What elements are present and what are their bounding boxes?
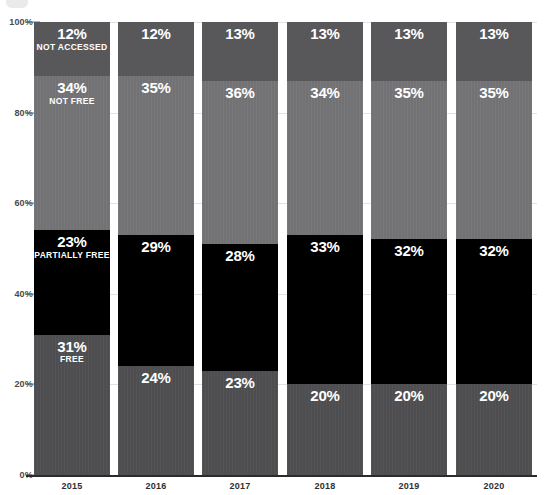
segment-value-label: 35% <box>479 85 508 101</box>
bar-2019[interactable]: 13%35%32%20% <box>371 22 447 475</box>
x-axis-label-2016: 2016 <box>118 481 194 491</box>
segment-value-label: 35% <box>141 80 170 96</box>
segment-free-2019[interactable]: 20% <box>371 384 447 475</box>
segment-notfree-2018[interactable]: 34% <box>287 81 363 235</box>
segment-value-label: 23% <box>225 375 254 391</box>
segment-value-label: 29% <box>141 239 170 255</box>
segment-value-label: 35% <box>394 85 423 101</box>
segment-value-label: 34% <box>57 80 86 96</box>
segment-value-label: 31% <box>57 339 86 355</box>
segment-value-label: 13% <box>479 26 508 42</box>
segment-value-label: 36% <box>225 85 254 101</box>
segment-partiallyfree-2016[interactable]: 29% <box>118 235 194 366</box>
segment-value-label: 20% <box>394 388 423 404</box>
segment-category-label: NOT FREE <box>49 97 94 107</box>
segment-partiallyfree-2017[interactable]: 28% <box>202 244 278 371</box>
y-tick-label: 80% <box>0 108 33 118</box>
segment-value-label: 13% <box>394 26 423 42</box>
segment-value-label: 13% <box>225 26 254 42</box>
segment-partiallyfree-2019[interactable]: 32% <box>371 239 447 384</box>
segment-partiallyfree-2015[interactable]: 23%PARTIALLY FREE <box>34 230 110 334</box>
segment-value-label: 12% <box>141 26 170 42</box>
segment-free-2015[interactable]: 31%FREE <box>34 335 110 475</box>
segment-notaccessed-2017[interactable]: 13% <box>202 22 278 81</box>
segment-value-label: 33% <box>310 239 339 255</box>
corner-artifact <box>6 0 28 8</box>
x-axis-baseline <box>26 475 537 477</box>
bar-2017[interactable]: 13%36%28%23% <box>202 22 278 475</box>
segment-notaccessed-2016[interactable]: 12% <box>118 22 194 76</box>
y-tick-label: 60% <box>0 198 33 208</box>
segment-notfree-2020[interactable]: 35% <box>456 81 532 240</box>
segment-value-label: 20% <box>479 388 508 404</box>
segment-value-label: 13% <box>310 26 339 42</box>
x-axis-label-2017: 2017 <box>202 481 278 491</box>
segment-category-label: PARTIALLY FREE <box>34 251 109 261</box>
segment-notaccessed-2020[interactable]: 13% <box>456 22 532 81</box>
x-axis-label-2015: 2015 <box>34 481 110 491</box>
bar-2016[interactable]: 12%35%29%24% <box>118 22 194 475</box>
segment-free-2016[interactable]: 24% <box>118 366 194 475</box>
segment-partiallyfree-2020[interactable]: 32% <box>456 239 532 384</box>
segment-value-label: 24% <box>141 370 170 386</box>
segment-value-label: 34% <box>310 85 339 101</box>
segment-notfree-2019[interactable]: 35% <box>371 81 447 240</box>
segment-category-label: NOT ACCESSED <box>37 43 108 53</box>
segment-notfree-2015[interactable]: 34%NOT FREE <box>34 76 110 230</box>
bar-2015[interactable]: 12%NOT ACCESSED34%NOT FREE23%PARTIALLY F… <box>34 22 110 475</box>
segment-notfree-2017[interactable]: 36% <box>202 81 278 244</box>
segment-notaccessed-2015[interactable]: 12%NOT ACCESSED <box>34 22 110 76</box>
segment-notfree-2016[interactable]: 35% <box>118 76 194 235</box>
x-axis-label-2018: 2018 <box>287 481 363 491</box>
segment-value-label: 32% <box>479 243 508 259</box>
segment-free-2017[interactable]: 23% <box>202 371 278 475</box>
segment-notaccessed-2018[interactable]: 13% <box>287 22 363 81</box>
bar-2018[interactable]: 13%34%33%20% <box>287 22 363 475</box>
segment-category-label: FREE <box>60 355 84 365</box>
segment-value-label: 12% <box>57 26 86 42</box>
segment-free-2018[interactable]: 20% <box>287 384 363 475</box>
y-tick-label: 20% <box>0 379 33 389</box>
y-tick-label: 100% <box>0 17 33 27</box>
segment-value-label: 20% <box>310 388 339 404</box>
segment-value-label: 28% <box>225 248 254 264</box>
segment-value-label: 32% <box>394 243 423 259</box>
x-axis-label-2020: 2020 <box>456 481 532 491</box>
bar-2020[interactable]: 13%35%32%20% <box>456 22 532 475</box>
segment-partiallyfree-2018[interactable]: 33% <box>287 235 363 384</box>
segment-notaccessed-2019[interactable]: 13% <box>371 22 447 81</box>
y-tick-label: 40% <box>0 289 33 299</box>
stacked-bar-chart: 0%20%40%60%80%100% 12%NOT ACCESSED34%NOT… <box>0 0 545 495</box>
segment-value-label: 23% <box>57 234 86 250</box>
x-axis-label-2019: 2019 <box>371 481 447 491</box>
segment-free-2020[interactable]: 20% <box>456 384 532 475</box>
